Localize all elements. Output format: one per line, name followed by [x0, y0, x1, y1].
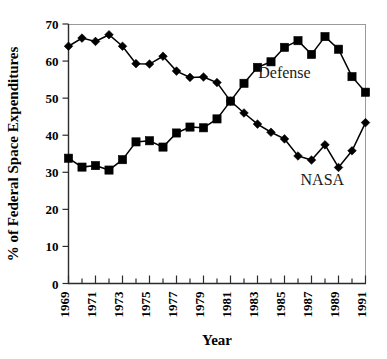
x-tick-label: 1973 [111, 291, 126, 318]
x-tick-label: 1979 [192, 291, 207, 318]
x-tick-label: 1977 [165, 291, 180, 318]
y-axis-title: % of Federal Space Expenditures [5, 46, 21, 261]
data-point-diamond [186, 73, 195, 82]
data-point-diamond [64, 42, 73, 51]
data-point-diamond [145, 60, 154, 69]
data-point-square [361, 88, 369, 96]
x-tick-label: 1971 [84, 292, 99, 318]
data-point-square [91, 162, 99, 170]
data-point-diamond [361, 118, 370, 127]
data-point-square [321, 33, 329, 41]
x-tick-label: 1991 [354, 292, 369, 318]
data-point-square [348, 73, 356, 81]
y-tick-label: 0 [52, 277, 59, 292]
data-point-square [186, 123, 194, 131]
y-tick-label: 60 [46, 54, 59, 69]
series-line-nasa [69, 35, 366, 168]
data-point-square [226, 97, 234, 105]
data-point-square [132, 138, 140, 146]
series-layer [64, 30, 370, 174]
series-annotations: DefenseNASA [258, 64, 344, 189]
space-expenditures-line-chart: 010203040506070 196919711973197519771979… [0, 0, 387, 359]
x-tick-label: 1983 [246, 291, 261, 318]
data-point-diamond [199, 73, 208, 82]
y-axis-tick-labels: 010203040506070 [46, 17, 59, 292]
series-nasa [64, 30, 370, 171]
data-point-square [240, 79, 248, 87]
y-tick-label: 10 [46, 239, 59, 254]
axes [68, 24, 366, 284]
x-tick-label: 1987 [300, 291, 315, 318]
x-tick-label: 1985 [273, 291, 288, 318]
y-tick-label: 20 [46, 202, 59, 217]
data-point-square [78, 163, 86, 171]
plot-frame [68, 25, 366, 285]
data-point-square [172, 129, 180, 137]
data-point-square [294, 37, 302, 45]
y-tick-label: 70 [46, 17, 59, 32]
data-point-square [280, 43, 288, 51]
data-point-diamond [267, 128, 276, 137]
data-point-square [105, 166, 113, 174]
data-point-square [159, 143, 167, 151]
x-axis-ticks [69, 276, 366, 284]
x-axis-title: Year [202, 332, 232, 348]
data-point-square [64, 154, 72, 162]
data-point-square [307, 50, 315, 58]
x-tick-label: 1981 [219, 292, 234, 318]
series-annotation-defense: Defense [258, 64, 310, 81]
data-point-diamond [91, 37, 100, 46]
y-axis-ticks [63, 24, 69, 284]
data-point-diamond [78, 34, 87, 43]
chart-container: 010203040506070 196919711973197519771979… [0, 0, 387, 359]
y-tick-label: 30 [46, 165, 59, 180]
data-point-square [334, 45, 342, 53]
y-tick-label: 40 [46, 128, 59, 143]
x-axis-tick-labels: 1969197119731975197719791981198319851987… [57, 291, 369, 318]
data-point-square [213, 115, 221, 123]
x-tick-label: 1989 [327, 291, 342, 318]
x-tick-label: 1975 [138, 291, 153, 318]
data-point-square [145, 137, 153, 145]
y-tick-label: 50 [46, 91, 59, 106]
x-tick-label: 1969 [57, 291, 72, 318]
data-point-square [199, 124, 207, 132]
data-point-square [118, 156, 126, 164]
series-defense [64, 33, 369, 175]
series-annotation-nasa: NASA [301, 171, 345, 188]
